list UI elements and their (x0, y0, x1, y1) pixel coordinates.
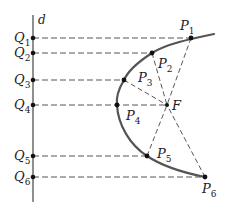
focus-dot (165, 103, 169, 107)
q2-dot (31, 51, 36, 56)
q6-dot (31, 175, 36, 180)
q4-label: Q4 (14, 97, 31, 115)
q5-dot (31, 154, 36, 159)
p1-dot (189, 36, 194, 41)
p4-dot (115, 103, 120, 108)
p6-dot (203, 175, 208, 180)
dash-p6-f (167, 105, 205, 177)
p5-dot (145, 154, 150, 159)
p4-label: P4 (125, 108, 141, 126)
parabola-focus-directrix-diagram: d Q1 Q2 Q3 (0, 0, 226, 212)
p3-label: P3 (137, 70, 153, 88)
q4-dot (31, 103, 36, 108)
directrix-label: d (38, 13, 46, 27)
p6-label: P6 (201, 181, 217, 199)
focus-label: F (171, 98, 182, 113)
p3-dot (122, 78, 127, 83)
p1-label: P1 (179, 18, 194, 36)
p2-label: P2 (157, 56, 172, 74)
q6-label: Q6 (14, 169, 31, 187)
p2-dot (150, 51, 155, 56)
q5-label: Q5 (14, 148, 31, 166)
q-labels: Q1 Q2 Q3 Q4 Q5 Q6 (14, 30, 31, 187)
q1-dot (31, 36, 36, 41)
q3-dot (31, 78, 36, 83)
q3-label: Q3 (14, 72, 31, 90)
